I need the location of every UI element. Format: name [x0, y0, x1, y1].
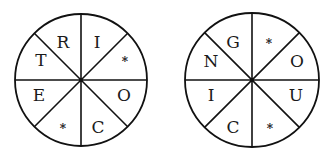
sector-label: C	[226, 117, 239, 137]
sector-label: O	[290, 51, 304, 71]
sector-label: I	[94, 32, 101, 52]
sector-label: *	[266, 37, 273, 51]
sector-label: *	[267, 122, 274, 136]
hub-dot	[250, 78, 254, 82]
sector-label: *	[122, 55, 129, 69]
hub-dot	[79, 78, 83, 82]
wheel-right: G * O U * C I N	[185, 13, 319, 147]
sector-label: C	[91, 117, 104, 137]
letter-wheel-puzzle: R I * O C * E T G * O U * C I N	[0, 0, 333, 158]
sector-label: E	[33, 85, 45, 105]
sector-label: O	[117, 85, 131, 105]
sector-label: *	[60, 122, 67, 136]
sector-label: T	[35, 50, 47, 70]
sector-label: G	[226, 32, 240, 52]
sector-label: I	[208, 85, 215, 105]
sector-label: N	[204, 51, 219, 71]
wheel-left: R I * O C * E T	[15, 14, 147, 146]
sector-label: R	[57, 32, 71, 52]
sector-label: U	[289, 85, 303, 105]
